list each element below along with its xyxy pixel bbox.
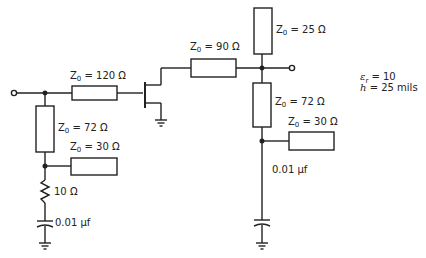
label-input-shunt: Z0 = 72 Ω	[58, 122, 108, 137]
line-output-shunt	[253, 83, 271, 127]
ground-icon	[155, 120, 167, 126]
line-output-stub-top	[254, 8, 272, 54]
label-input-series: Z0 = 120 Ω	[70, 70, 126, 85]
label-output-capacitor: 0.01 μf	[272, 164, 307, 176]
label-output-stub-top: Z0 = 25 Ω	[276, 24, 326, 39]
line-output-stub	[289, 132, 334, 150]
label-output-series: Z0 = 90 Ω	[190, 41, 240, 56]
line-output-series	[191, 59, 236, 77]
output-terminal-icon	[289, 65, 294, 70]
input-ground-icon	[39, 243, 51, 249]
label-input-capacitor: 0.01 μf	[55, 217, 90, 229]
label-resistor: 10 Ω	[54, 186, 78, 198]
substrate-height: h = 25 mils	[360, 82, 418, 93]
label-input-stub: Z0 = 30 Ω	[70, 141, 120, 156]
line-input-stub	[71, 158, 117, 175]
input-terminal-icon	[11, 90, 16, 95]
input-capacitor-icon	[37, 221, 53, 243]
resistor-icon	[41, 180, 49, 203]
output-capacitor-icon	[254, 220, 270, 243]
output-ground-icon	[256, 243, 268, 249]
label-output-stub: Z0 = 30 Ω	[288, 116, 338, 131]
line-input-shunt	[36, 106, 54, 152]
label-output-shunt: Z0 = 72 Ω	[275, 96, 325, 111]
schematic-canvas: Z0 = 120 Ω Z0 = 72 Ω Z0 = 30 Ω Z0 = 90 Ω…	[0, 0, 426, 258]
fet-transistor-icon	[145, 68, 161, 120]
line-input-series	[72, 86, 117, 100]
